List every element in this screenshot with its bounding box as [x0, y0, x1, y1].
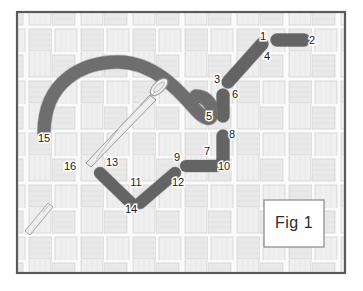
reference-label: 13 [106, 156, 118, 168]
label-12: 12 [172, 176, 184, 188]
reference-label: 7 [204, 145, 210, 157]
label-1: 1 [260, 30, 266, 42]
reference-label: 12 [172, 176, 184, 188]
reference-label: 9 [174, 151, 180, 163]
label-6: 6 [232, 88, 238, 100]
label-8: 8 [229, 128, 235, 140]
patent-figure: 1 2 3 4 5 6 7 8 9 [0, 0, 363, 291]
reference-label: 8 [229, 128, 235, 140]
label-4: 4 [264, 50, 270, 62]
reference-label: 15 [38, 132, 50, 144]
reference-label: 1 [260, 30, 266, 42]
reference-label: 4 [264, 50, 270, 62]
label-13: 13 [106, 156, 118, 168]
figure-caption-box: Fig 1 [264, 200, 324, 247]
reference-label: 14 [125, 203, 137, 215]
label-10: 10 [218, 160, 230, 172]
reference-label: 10 [218, 160, 230, 172]
label-2: 2 [309, 34, 315, 46]
label-5: 5 [206, 110, 212, 122]
label-9: 9 [174, 151, 180, 163]
label-15: 15 [38, 132, 50, 144]
label-11: 11 [130, 176, 141, 188]
label-7: 7 [204, 145, 210, 157]
reference-label: 2 [309, 34, 315, 46]
reference-label: 6 [232, 88, 238, 100]
figure-caption-text: Fig 1 [275, 214, 313, 231]
reference-label: 11 [130, 176, 141, 188]
reference-label: 16 [64, 160, 76, 172]
reference-label: 5 [206, 110, 212, 122]
reference-label: 3 [214, 73, 220, 85]
label-14: 14 [125, 203, 137, 215]
label-16: 16 [64, 160, 76, 172]
figure-canvas: 1 2 3 4 5 6 7 8 9 [0, 0, 363, 291]
label-3: 3 [214, 73, 220, 85]
